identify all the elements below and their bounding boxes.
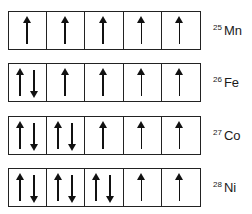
spin-down-arrow-icon: [33, 123, 35, 149]
orbital-box: [85, 169, 123, 206]
orbital-row-ni: [8, 168, 201, 207]
orbital-box: [85, 117, 123, 154]
element-symbol: Mn: [224, 23, 242, 38]
orbital-box: [85, 12, 123, 49]
orbital-box: [124, 12, 162, 49]
element-symbol: Fe: [224, 75, 239, 90]
orbital-box: [47, 64, 85, 101]
spin-up-arrow-icon: [19, 70, 21, 96]
element-symbol: Co: [224, 128, 241, 143]
spin-up-arrow-icon: [179, 70, 181, 96]
spin-down-arrow-icon: [109, 175, 111, 201]
orbital-box: [124, 64, 162, 101]
orbital-box: [47, 12, 85, 49]
orbital-box: [85, 64, 123, 101]
spin-down-arrow-icon: [71, 123, 73, 149]
spin-up-arrow-icon: [141, 18, 143, 44]
spin-up-arrow-icon: [95, 175, 97, 201]
element-symbol: Ni: [224, 180, 236, 195]
orbital-row-co: [8, 116, 201, 155]
mass-number: 25: [213, 23, 222, 32]
orbital-box: [9, 169, 47, 206]
element-label: 28Ni: [213, 180, 236, 195]
mass-number: 28: [213, 180, 222, 189]
spin-down-arrow-icon: [71, 175, 73, 201]
element-label: 25Mn: [213, 23, 242, 38]
spin-up-arrow-icon: [64, 70, 66, 96]
spin-up-arrow-icon: [102, 70, 104, 96]
spin-up-arrow-icon: [26, 18, 28, 44]
spin-up-arrow-icon: [19, 175, 21, 201]
orbital-box: [47, 117, 85, 154]
orbital-box: [162, 169, 200, 206]
spin-up-arrow-icon: [179, 18, 181, 44]
orbital-row-fe: [8, 63, 201, 102]
mass-number: 27: [213, 128, 222, 137]
orbital-box: [162, 12, 200, 49]
spin-down-arrow-icon: [33, 70, 35, 96]
spin-up-arrow-icon: [141, 123, 143, 149]
spin-up-arrow-icon: [141, 175, 143, 201]
spin-up-arrow-icon: [19, 123, 21, 149]
orbital-box: [124, 117, 162, 154]
orbital-box: [9, 64, 47, 101]
spin-up-arrow-icon: [179, 123, 181, 149]
orbital-box: [47, 169, 85, 206]
orbital-box: [124, 169, 162, 206]
spin-up-arrow-icon: [57, 175, 59, 201]
mass-number: 26: [213, 75, 222, 84]
spin-down-arrow-icon: [33, 175, 35, 201]
orbital-box: [162, 117, 200, 154]
orbital-box: [9, 12, 47, 49]
orbital-box: [9, 117, 47, 154]
spin-up-arrow-icon: [102, 18, 104, 44]
element-label: 27Co: [213, 128, 241, 143]
element-label: 26Fe: [213, 75, 239, 90]
spin-up-arrow-icon: [57, 123, 59, 149]
spin-up-arrow-icon: [179, 175, 181, 201]
orbital-row-mn: [8, 11, 201, 50]
spin-up-arrow-icon: [141, 70, 143, 96]
orbital-box: [162, 64, 200, 101]
spin-up-arrow-icon: [64, 18, 66, 44]
spin-up-arrow-icon: [102, 123, 104, 149]
